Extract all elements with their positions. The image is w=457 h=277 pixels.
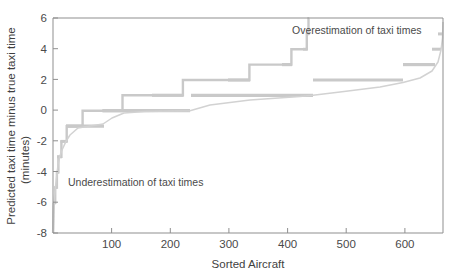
x-tick-label: 100 (102, 238, 121, 250)
y-tick-label: -2 (37, 135, 47, 147)
y-tick-label: 6 (41, 12, 47, 24)
x-tick-label: 600 (395, 238, 414, 250)
x-axis-title: Sorted Aircraft (212, 258, 286, 270)
y-tick-label: 2 (41, 74, 47, 86)
overestimation-label: Overestimation of taxi times (292, 24, 422, 36)
x-tick-label: 200 (161, 238, 180, 250)
y-tick-label: 4 (41, 43, 48, 55)
underestimation-label: Underestimation of taxi times (68, 176, 203, 188)
y-axis-title-line1: Predicted taxi time minus true taxi time (5, 27, 17, 225)
y-tick-label: -6 (37, 196, 47, 208)
taxi-time-error-chart: 6 4 2 0 -2 -4 -6 -8 100 200 300 400 500 … (0, 0, 457, 277)
x-tick-label: 300 (219, 238, 238, 250)
y-tick-label: 0 (41, 104, 47, 116)
y-tick-label: -8 (37, 227, 47, 239)
y-axis-title-line2: (minutes) (19, 136, 31, 184)
y-tick-label: -4 (37, 166, 48, 178)
x-tick-label: 500 (337, 238, 356, 250)
x-tick-label: 400 (278, 238, 297, 250)
chart-figure: 6 4 2 0 -2 -4 -6 -8 100 200 300 400 500 … (0, 0, 457, 277)
